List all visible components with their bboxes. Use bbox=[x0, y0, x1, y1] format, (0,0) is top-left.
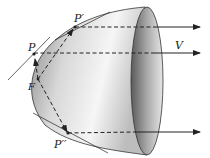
paraboloid-rim bbox=[131, 7, 163, 155]
label-v: V bbox=[175, 39, 184, 52]
paraboloid-diagram: P P′ P′′ F V bbox=[0, 0, 210, 158]
point-p-prime bbox=[73, 25, 76, 28]
label-p-double-prime: P′′ bbox=[53, 138, 67, 151]
point-f bbox=[37, 78, 40, 81]
label-p: P bbox=[27, 41, 36, 54]
label-f: F bbox=[27, 81, 36, 92]
label-p-prime: P′ bbox=[73, 12, 84, 25]
diagram-canvas: P P′ P′′ F V bbox=[0, 0, 210, 158]
point-p-double-prime bbox=[66, 131, 69, 134]
